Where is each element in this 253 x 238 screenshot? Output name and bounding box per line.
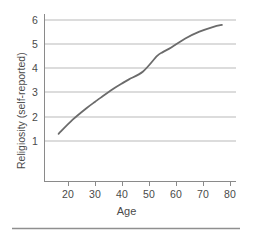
y-tick-label-6: 6 bbox=[24, 14, 38, 26]
x-axis-title: Age bbox=[0, 205, 253, 217]
y-axis-title: Religiosity (self-reported) bbox=[15, 52, 27, 169]
x-tick-label-40: 40 bbox=[112, 188, 132, 200]
x-tick-label-60: 60 bbox=[166, 188, 186, 200]
gridlines bbox=[45, 20, 236, 141]
x-tick-label-50: 50 bbox=[139, 188, 159, 200]
x-tick-label-30: 30 bbox=[85, 188, 105, 200]
x-tick-label-20: 20 bbox=[58, 188, 78, 200]
x-tick-label-70: 70 bbox=[193, 188, 213, 200]
x-axis-ticks bbox=[69, 182, 231, 186]
y-tick-label-5: 5 bbox=[24, 38, 38, 50]
chart-figure: 6 5 4 3 2 1 20 30 40 50 60 70 80 Age Rel… bbox=[0, 0, 253, 238]
x-tick-label-80: 80 bbox=[220, 188, 240, 200]
